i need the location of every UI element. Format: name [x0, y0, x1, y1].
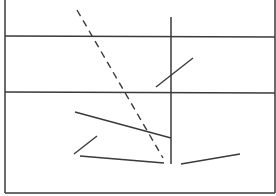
frame [5, 0, 275, 193]
horizontal-rules [5, 36, 275, 93]
dashed-diagonal-line [77, 10, 163, 158]
bottom-line-right [181, 154, 240, 164]
diagram-svg [0, 0, 276, 196]
line-segments [74, 10, 240, 164]
short-diagonal-upper-right [156, 58, 193, 87]
line-diagram [0, 0, 276, 196]
lower-horizontal-line [5, 92, 275, 93]
short-diagonal-lower-left [74, 136, 97, 154]
sloped-line-middle [75, 112, 171, 138]
bottom-line-left [80, 156, 164, 163]
upper-horizontal-line [5, 36, 275, 37]
